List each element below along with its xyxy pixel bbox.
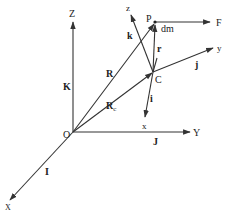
label-Y: Y [193,127,200,138]
label-Rc: Rc [106,100,116,113]
label-Z: Z [69,8,75,19]
vector-R [73,24,154,132]
label-R: R [106,68,114,79]
label-O: O [63,129,70,140]
label-i: i [150,93,153,104]
label-k: k [127,30,133,41]
label-r: r [157,43,162,54]
body-y-axis [153,48,213,72]
global-x-axis [10,132,73,200]
label-j: j [194,59,198,70]
label-dm: dm [161,23,174,34]
label-Rc-sub: c [113,105,116,113]
label-F: F [216,17,222,28]
point-P-dot [153,20,156,23]
label-C: C [155,74,162,85]
label-K: K [63,81,71,92]
rigid-body-diagram: Z K O Y J I X R Rc r C z k y j i x P dm … [0,0,227,210]
label-z: z [126,3,130,13]
label-P: P [146,13,152,24]
label-J: J [153,136,158,147]
label-x: x [142,121,147,131]
label-I: I [45,166,49,177]
label-y: y [217,43,222,53]
label-X: X [5,203,11,210]
